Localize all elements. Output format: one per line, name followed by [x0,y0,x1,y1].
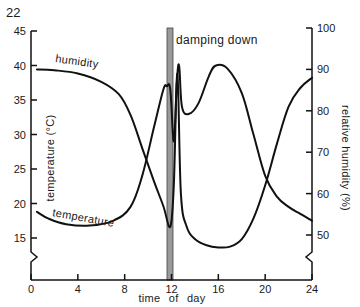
right-axis-title: relative humidity (%) [340,105,352,211]
right-axis-ticks: 5060708090100 [306,22,335,241]
left-tick-label: 25 [14,163,26,175]
right-tick-label: 60 [317,188,329,200]
damping-down-bar [167,28,173,280]
left-axis-title: temperature (°C) [44,115,56,202]
right-tick-label: 100 [317,22,335,34]
left-axis [31,31,37,280]
left-tick-label: 35 [14,94,26,106]
left-tick-label: 40 [14,60,26,72]
x-tick-label: 4 [75,283,81,295]
x-axis-title: time of day [138,292,205,304]
right-tick-label: 80 [317,105,329,117]
right-tick-label: 70 [317,146,329,158]
left-tick-label: 30 [14,129,26,141]
figure-number: 22 [6,5,20,20]
x-tick-label: 20 [259,283,271,295]
x-tick-label: 0 [28,283,34,295]
left-axis-ticks: 15202530354045 [14,25,37,244]
left-tick-label: 15 [14,232,26,244]
x-tick-label: 8 [122,283,128,295]
right-tick-label: 50 [317,229,329,241]
chart-figure: 22 damping down 15202530354045 506070809… [0,0,360,307]
x-tick-label: 16 [212,283,224,295]
right-tick-label: 90 [317,63,329,75]
humidity-curve-label: humidity [55,52,100,70]
right-axis [306,28,312,280]
damping-down-label: damping down [176,33,258,47]
x-tick-label: 24 [306,283,318,295]
left-tick-label: 20 [14,198,26,210]
left-tick-label: 45 [14,25,26,37]
